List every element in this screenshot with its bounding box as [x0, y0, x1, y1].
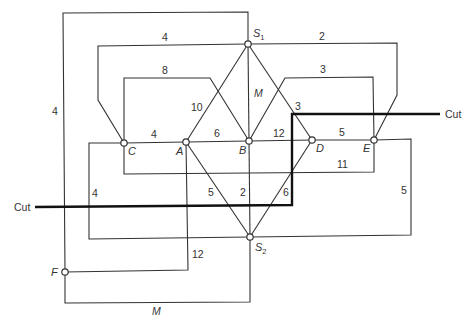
node-S1 — [245, 41, 251, 47]
node-D — [309, 137, 315, 143]
node-A — [183, 139, 189, 145]
edge-E-S2 — [250, 139, 411, 237]
weight-C-A: 4 — [151, 128, 157, 140]
edge-S1-C — [98, 44, 248, 143]
cut-label-left: Cut — [14, 201, 30, 213]
weight-D-S2: 6 — [283, 186, 289, 198]
edges — [63, 12, 411, 303]
weight-A-S2: 5 — [208, 186, 214, 198]
network-diagram: 4 4 8 10 M 3 3 2 4 6 12 5 11 4 5 2 6 5 1… — [0, 0, 470, 327]
label-S1: S1 — [253, 27, 265, 42]
label-D: D — [316, 142, 324, 154]
node-E — [371, 137, 377, 143]
edge-C-A — [124, 142, 186, 143]
node-B — [246, 138, 252, 144]
label-C: C — [128, 145, 136, 157]
edge-C-S2 — [89, 143, 250, 239]
weight-S1-A: 10 — [191, 101, 203, 113]
weight-C-B: 8 — [162, 64, 168, 76]
node-C — [121, 140, 127, 146]
edge-D-S2 — [250, 140, 312, 237]
label-E: E — [363, 142, 371, 154]
nodes — [62, 41, 377, 275]
weight-C-S2: 4 — [92, 187, 98, 199]
edge-A-B — [186, 141, 249, 142]
weight-S1-C: 4 — [162, 31, 168, 43]
weight-F-S2: M — [152, 305, 161, 317]
weight-A-F: 12 — [192, 248, 204, 260]
node-F — [62, 269, 68, 275]
edge-S1-E — [248, 43, 397, 140]
edge-B-D — [249, 140, 312, 141]
weight-S1-B: M — [254, 87, 263, 99]
cut-label-right: Cut — [445, 108, 461, 120]
edge-C-B — [124, 78, 249, 143]
weight-B-S2: 2 — [240, 186, 246, 198]
weight-F-S1: 4 — [52, 105, 58, 117]
label-F: F — [51, 266, 59, 278]
edge-B-E — [249, 77, 374, 141]
edge-S1-B — [248, 44, 249, 141]
weight-C-E: 11 — [337, 158, 348, 170]
weight-D-E: 5 — [339, 126, 345, 138]
label-A: A — [175, 145, 183, 157]
weight-E-S2: 5 — [401, 184, 407, 196]
node-S2 — [247, 234, 253, 240]
weight-B-D: 12 — [273, 127, 285, 139]
weight-A-B: 6 — [214, 127, 220, 139]
edge-B-S2 — [249, 141, 250, 237]
weight-S1-E: 2 — [319, 30, 325, 42]
label-B: B — [239, 144, 246, 156]
weight-S1-D: 3 — [295, 100, 301, 112]
weight-B-E: 3 — [320, 63, 326, 75]
label-S2: S2 — [255, 241, 267, 256]
